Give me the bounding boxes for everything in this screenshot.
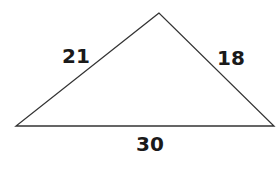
triangle-diagram: 21 18 30 [0,0,278,177]
side-label-left: 21 [62,44,90,68]
side-label-base: 30 [136,132,164,156]
side-label-right: 18 [217,46,245,70]
